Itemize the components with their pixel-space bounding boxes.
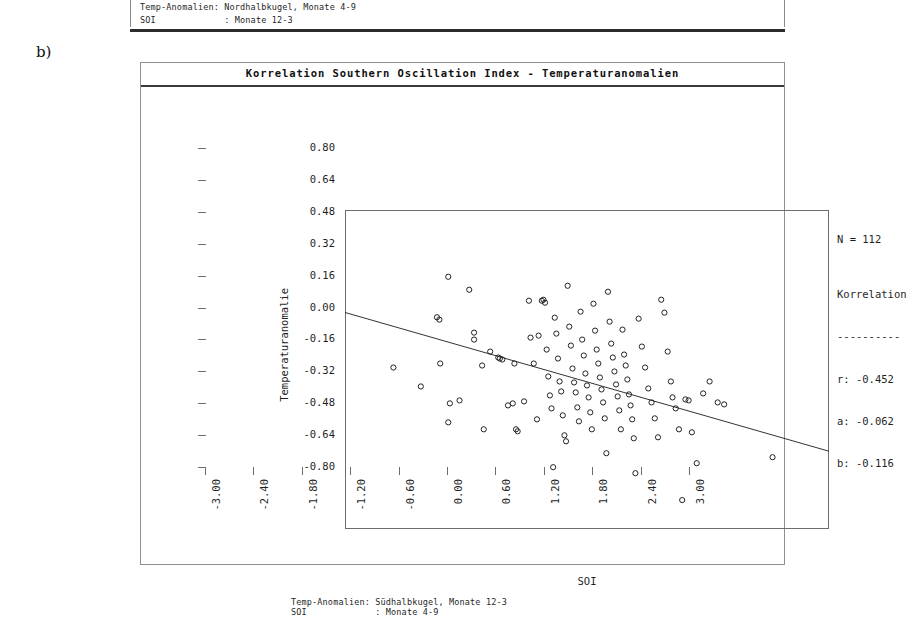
scatter-point [481, 427, 486, 432]
scatter-point [607, 319, 612, 324]
y-tick-mark [198, 148, 206, 149]
y-tick-label: -0.48 [303, 396, 335, 408]
scatter-point [610, 355, 615, 360]
scatter-point [689, 430, 694, 435]
scatter-point [609, 341, 614, 346]
scatter-point [568, 343, 573, 348]
y-tick-label: 0.32 [310, 237, 335, 249]
y-tick-mark [198, 435, 206, 436]
scatter-point [602, 416, 607, 421]
scatter-point [534, 417, 539, 422]
statistics-panel: N = 112 Korrelation ---------- r: -0.452… [837, 204, 907, 498]
panel-letter: b) [36, 43, 51, 61]
scatter-point [418, 384, 423, 389]
scatter-point [662, 310, 667, 315]
fragment-caption-line-1: Temp-Anomalien: Nordhalbkugel, Monate 4-… [140, 2, 356, 12]
x-tick-mark [302, 467, 303, 475]
y-tick-mark [198, 276, 206, 277]
scatter-point [604, 451, 609, 456]
scatter-point [578, 309, 583, 314]
scatter-point [536, 333, 541, 338]
x-tick-label: -3.00 [210, 479, 222, 511]
fragment-left-rule [130, 0, 131, 27]
scatter-point [686, 398, 691, 403]
y-tick-label: -0.80 [303, 460, 335, 472]
scatter-point [488, 349, 493, 354]
scatter-point [559, 389, 564, 394]
scatter-point [554, 331, 559, 336]
scatter-point [457, 398, 462, 403]
scatter-point [576, 419, 581, 424]
scatter-point [631, 436, 636, 441]
scatter-point [562, 433, 567, 438]
y-tick-label: -0.64 [303, 428, 335, 440]
scatter-point [471, 330, 476, 335]
scatter-point [531, 361, 536, 366]
scatter-point [770, 455, 775, 460]
regression-b-value: b: -0.116 [837, 456, 907, 470]
correlation-r-value: r: -0.452 [837, 372, 907, 386]
scatter-point [707, 379, 712, 384]
y-tick-mark [198, 371, 206, 372]
scatter-point [570, 366, 575, 371]
scatter-point [560, 413, 565, 418]
x-tick-label: -2.40 [258, 479, 270, 511]
scatter-point [670, 395, 675, 400]
y-tick-label: -0.32 [303, 364, 335, 376]
previous-figure-caption-fragment: Temp-Anomalien: Nordhalbkugel, Monate 4-… [130, 0, 785, 38]
scatter-point [549, 406, 554, 411]
sample-size-label: N = 112 [837, 232, 907, 246]
scatter-point [642, 365, 647, 370]
x-tick-label: -1.80 [307, 479, 319, 511]
scatter-point [652, 416, 657, 421]
y-tick-mark [198, 308, 206, 309]
regression-line [345, 312, 829, 451]
scatter-point [683, 397, 688, 402]
y-tick-label: 0.80 [310, 141, 335, 153]
scatter-point [480, 363, 485, 368]
correlation-heading: Korrelation [837, 287, 907, 301]
scatter-point [633, 471, 638, 476]
scatter-point [544, 347, 549, 352]
scatter-point [636, 316, 641, 321]
scatter-point [615, 394, 620, 399]
scatter-point [673, 406, 678, 411]
scatter-point [546, 374, 551, 379]
scatter-point [701, 391, 706, 396]
scatter-point [589, 427, 594, 432]
scatter-point [583, 371, 588, 376]
scatter-point [605, 289, 610, 294]
scatter-point [599, 387, 604, 392]
y-tick-label: 0.16 [310, 269, 335, 281]
scatter-point [575, 405, 580, 410]
regression-a-value: a: -0.062 [837, 414, 907, 428]
y-tick-mark [198, 403, 206, 404]
scatter-point [596, 361, 601, 366]
fragment-right-rule [784, 0, 785, 27]
x-tick-mark [253, 467, 254, 475]
scatter-point [646, 386, 651, 391]
scatter-point [597, 375, 602, 380]
scatter-point [665, 349, 670, 354]
scatter-point [565, 283, 570, 288]
scatter-point [680, 497, 685, 502]
scatter-point [694, 461, 699, 466]
scatter-point [628, 403, 633, 408]
scatter-plot [345, 210, 829, 529]
scatter-point [580, 337, 585, 342]
figure-caption: Temp-Anomalien: Südhalbkugel, Monate 12-… [291, 597, 507, 617]
scatter-point [594, 347, 599, 352]
scatter-point [555, 356, 560, 361]
scatter-point [447, 401, 452, 406]
y-tick-mark [198, 180, 206, 181]
fragment-caption-line-2: SOI : Monate 12-3 [140, 15, 293, 25]
scatter-point [446, 274, 451, 279]
y-tick-label: -0.16 [303, 332, 335, 344]
scatter-point [586, 395, 591, 400]
y-tick-label: 0.64 [310, 173, 335, 185]
scatter-point [547, 393, 552, 398]
scatter-point [567, 324, 572, 329]
scatter-point [557, 379, 562, 384]
scatter-point [618, 427, 623, 432]
scatter-point [639, 344, 644, 349]
